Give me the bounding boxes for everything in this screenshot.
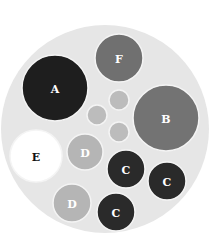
circle-label: E: [32, 151, 40, 164]
circle-shape: [87, 105, 107, 125]
circle-label: D: [80, 147, 90, 160]
circle-d: D: [67, 134, 103, 170]
circle-label: C: [122, 164, 131, 177]
circle-label: C: [163, 176, 172, 189]
circle-f: F: [95, 34, 143, 82]
circle-c: C: [107, 150, 145, 188]
circle-c: C: [148, 162, 186, 200]
circle-shape: [109, 122, 129, 142]
circle-label: C: [112, 207, 121, 220]
circle-shape: [109, 90, 129, 110]
circle-label: A: [50, 83, 60, 96]
circle-small: [87, 105, 107, 125]
circle-small: [109, 90, 129, 110]
circle-label: D: [67, 198, 77, 211]
diagram-canvas: AFBEDDCCC: [0, 0, 215, 244]
circle-label: B: [161, 113, 170, 126]
circle-label: F: [115, 53, 123, 66]
packed-circle-diagram: AFBEDDCCC: [0, 0, 215, 244]
circle-small: [109, 122, 129, 142]
circle-a: A: [22, 55, 88, 121]
circle-c: C: [97, 193, 135, 231]
circle-b: B: [133, 85, 199, 151]
circle-e: E: [10, 130, 62, 182]
circle-d: D: [53, 184, 91, 222]
